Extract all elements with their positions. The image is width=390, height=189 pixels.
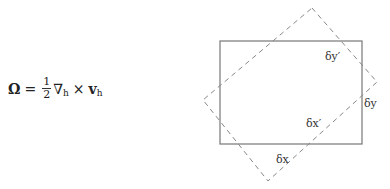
solid-rectangle bbox=[220, 41, 362, 144]
label-dx: δx bbox=[276, 153, 290, 166]
label-dy: δy bbox=[364, 97, 378, 110]
dashed-rotated-rectangle bbox=[203, 8, 377, 181]
label-dx-prime: δx′ bbox=[306, 117, 322, 130]
rotated-frame-diagram: δy′ δy δx′ δx bbox=[0, 0, 390, 189]
label-dy-prime: δy′ bbox=[325, 50, 341, 63]
